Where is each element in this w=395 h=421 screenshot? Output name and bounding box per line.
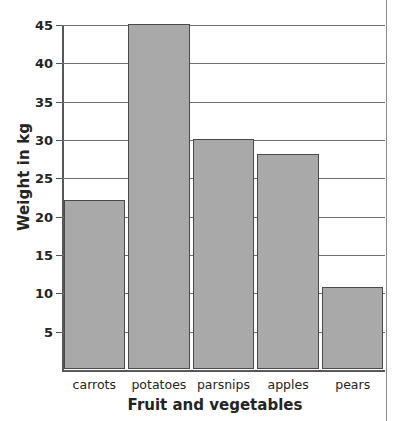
x-category-label: potatoes (128, 377, 190, 392)
y-axis-title: Weight in kg (15, 97, 33, 257)
bar-carrots (64, 200, 126, 369)
y-tick-mark (56, 140, 62, 141)
y-tick-label: 15 (35, 248, 53, 263)
x-category-label: pears (322, 377, 384, 392)
y-tick-label: 30 (35, 133, 53, 148)
x-category-label: carrots (64, 377, 126, 392)
bar-potatoes (128, 24, 190, 369)
y-tick-label: 25 (35, 171, 53, 186)
y-tick-label: 35 (35, 94, 53, 109)
gridline (62, 25, 385, 26)
y-tick-mark (56, 63, 62, 64)
x-axis-title: Fruit and vegetables (55, 396, 375, 414)
bar-parsnips (193, 139, 255, 369)
bar-pears (322, 287, 384, 369)
y-tick-label: 40 (35, 56, 53, 71)
bar-apples (257, 154, 319, 369)
y-tick-mark (56, 25, 62, 26)
gridline (62, 102, 385, 103)
bar-chart: Weight in kg 45403530252015105 carrotspo… (0, 0, 395, 421)
y-tick-label: 45 (35, 18, 53, 33)
page-right-border (386, 0, 387, 421)
y-tick-label: 10 (35, 286, 53, 301)
y-tick-mark (56, 255, 62, 256)
y-tick-label: 20 (35, 209, 53, 224)
y-tick-mark (56, 332, 62, 333)
y-tick-mark (56, 178, 62, 179)
y-tick-mark (56, 102, 62, 103)
x-axis-line (62, 370, 385, 372)
y-tick-mark (56, 293, 62, 294)
y-tick-label: 5 (44, 324, 53, 339)
x-category-label: apples (257, 377, 319, 392)
x-category-label: parsnips (193, 377, 255, 392)
plot-area: 45403530252015105 carrotspotatoesparsnip… (62, 25, 385, 371)
y-tick-mark (56, 217, 62, 218)
gridline (62, 63, 385, 64)
